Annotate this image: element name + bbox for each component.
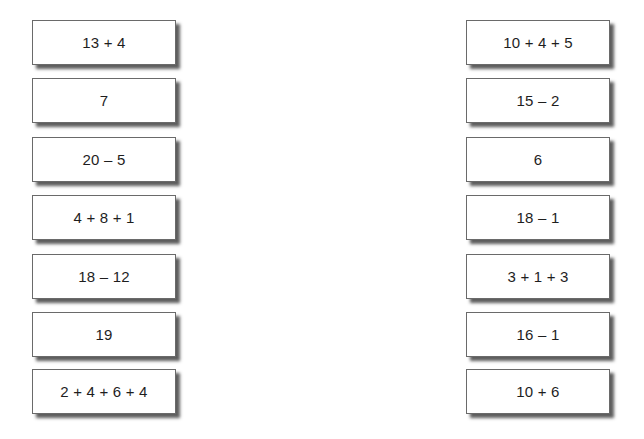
card-label: 20 – 5 xyxy=(83,151,126,168)
left-card-3[interactable]: 20 – 5 xyxy=(32,137,176,182)
left-card-7[interactable]: 2 + 4 + 6 + 4 xyxy=(32,369,176,414)
right-card-5[interactable]: 3 + 1 + 3 xyxy=(466,254,610,299)
right-card-4[interactable]: 18 – 1 xyxy=(466,195,610,240)
right-card-1[interactable]: 10 + 4 + 5 xyxy=(466,20,610,65)
card-label: 10 + 6 xyxy=(516,383,559,400)
card-label: 3 + 1 + 3 xyxy=(507,268,568,285)
left-card-2[interactable]: 7 xyxy=(32,78,176,123)
left-card-1[interactable]: 13 + 4 xyxy=(32,20,176,65)
card-label: 18 – 1 xyxy=(517,209,560,226)
card-label: 13 + 4 xyxy=(82,34,125,51)
card-label: 4 + 8 + 1 xyxy=(73,209,134,226)
left-card-4[interactable]: 4 + 8 + 1 xyxy=(32,195,176,240)
right-card-7[interactable]: 10 + 6 xyxy=(466,369,610,414)
card-label: 2 + 4 + 6 + 4 xyxy=(60,383,147,400)
card-label: 6 xyxy=(534,151,543,168)
left-card-6[interactable]: 19 xyxy=(32,312,176,357)
left-card-5[interactable]: 18 – 12 xyxy=(32,254,176,299)
right-card-3[interactable]: 6 xyxy=(466,137,610,182)
card-label: 19 xyxy=(95,326,112,343)
right-card-2[interactable]: 15 – 2 xyxy=(466,78,610,123)
card-label: 15 – 2 xyxy=(517,92,560,109)
card-label: 7 xyxy=(100,92,109,109)
card-label: 10 + 4 + 5 xyxy=(503,34,573,51)
card-label: 18 – 12 xyxy=(78,268,129,285)
right-card-6[interactable]: 16 – 1 xyxy=(466,312,610,357)
card-label: 16 – 1 xyxy=(517,326,560,343)
